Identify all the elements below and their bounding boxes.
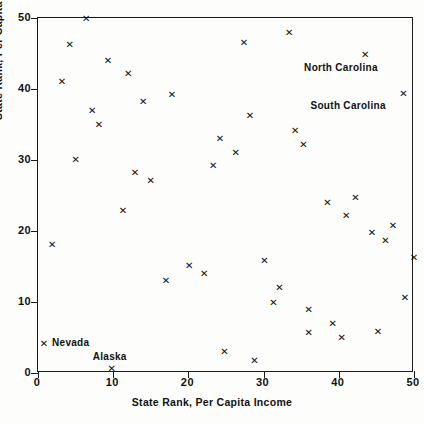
data-point: ✕ <box>65 40 74 49</box>
data-point: ✕ <box>82 14 91 23</box>
data-point: ✕ <box>250 356 259 365</box>
y-axis-tick-label: 50 <box>18 11 31 23</box>
data-point: ✕ <box>161 276 170 285</box>
x-axis-tick-labels: 01020304050 <box>37 376 413 392</box>
y-axis-tick-label: 20 <box>18 224 31 236</box>
x-axis-tick-label: 40 <box>331 376 344 388</box>
y-axis-tick-label: 40 <box>18 82 31 94</box>
data-point: ✕ <box>167 90 176 99</box>
y-axis-tick <box>31 18 38 19</box>
data-point: ✕ <box>285 28 294 37</box>
data-point: ✕ <box>139 97 148 106</box>
x-axis-tick-label: 0 <box>34 376 41 388</box>
data-point: ✕ <box>209 161 218 170</box>
data-point: ✕ <box>342 211 351 220</box>
data-point: ✕ <box>246 111 255 120</box>
point-annotation: Nevada <box>52 337 89 348</box>
y-axis-tick-label: 0 <box>24 366 31 378</box>
y-axis-tick <box>31 231 38 232</box>
data-point: ✕ <box>323 198 332 207</box>
data-point: ✕ <box>291 126 300 135</box>
y-axis-tick-labels: 01020304050 <box>0 17 31 372</box>
x-axis-tick-label: 30 <box>256 376 269 388</box>
data-point: ✕ <box>351 193 360 202</box>
data-point: ✕ <box>71 155 80 164</box>
data-point: ✕ <box>269 298 278 307</box>
y-axis-tick <box>31 160 38 161</box>
data-point: ✕ <box>131 168 140 177</box>
point-annotation: Alaska <box>93 351 127 362</box>
y-axis-tick <box>31 302 38 303</box>
x-axis-tick-label: 50 <box>406 376 419 388</box>
scatter-plot-figure: State Rank, Per Capita Grants 0102030405… <box>0 0 424 424</box>
data-point: ✕ <box>103 56 112 65</box>
data-point: ✕ <box>118 206 127 215</box>
data-point: ✕ <box>215 134 224 143</box>
point-annotation: North Carolina <box>304 62 378 73</box>
x-axis-tick-label: 10 <box>106 376 119 388</box>
data-point: ✕ <box>304 305 313 314</box>
data-point: ✕ <box>240 38 249 47</box>
data-point: ✕ <box>146 176 155 185</box>
data-point: ✕ <box>299 140 308 149</box>
data-point: ✕ <box>40 339 49 348</box>
data-point: ✕ <box>231 148 240 157</box>
x-axis-title: State Rank, Per Capita Income <box>0 396 424 408</box>
data-point: ✕ <box>185 261 194 270</box>
data-point: ✕ <box>304 328 313 337</box>
data-point: ✕ <box>275 283 284 292</box>
x-axis-tick-label: 20 <box>181 376 194 388</box>
data-point: ✕ <box>107 364 116 373</box>
data-point: ✕ <box>124 69 133 78</box>
data-point: ✕ <box>328 319 337 328</box>
data-point: ✕ <box>58 77 67 86</box>
data-point: ✕ <box>260 256 269 265</box>
point-annotation: South Carolina <box>310 100 385 111</box>
data-point: ✕ <box>399 89 408 98</box>
data-point: ✕ <box>361 50 370 59</box>
data-point: ✕ <box>200 269 209 278</box>
data-point: ✕ <box>373 327 382 336</box>
data-point: ✕ <box>400 293 409 302</box>
data-point: ✕ <box>88 106 97 115</box>
data-point: ✕ <box>410 253 419 262</box>
y-axis-tick <box>31 89 38 90</box>
data-point: ✕ <box>94 120 103 129</box>
data-point: ✕ <box>388 221 397 230</box>
data-point: ✕ <box>381 236 390 245</box>
data-point: ✕ <box>220 347 229 356</box>
y-axis-tick-label: 30 <box>18 153 31 165</box>
data-point: ✕ <box>367 228 376 237</box>
data-point: ✕ <box>48 240 57 249</box>
data-point: ✕ <box>337 333 346 342</box>
y-axis-tick <box>31 373 38 374</box>
y-axis-tick-label: 10 <box>18 295 31 307</box>
